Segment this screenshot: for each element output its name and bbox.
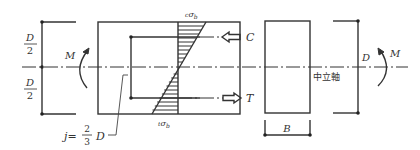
beam-bending-diagram: D 2 D 2 M [0, 0, 420, 150]
lever-arm-leader [108, 75, 128, 135]
left-moment-label: M [64, 50, 76, 61]
svg-text:3: 3 [84, 137, 90, 147]
tension-force-label: T [246, 92, 255, 105]
compression-force-label: C [246, 31, 255, 44]
svg-text:D: D [95, 130, 105, 143]
width-label: B [282, 123, 290, 134]
beam-elevation [98, 22, 240, 114]
hollow-arrow-right-icon [223, 93, 241, 103]
left-moment-arrow-icon [80, 48, 89, 88]
svg-text:D: D [25, 77, 34, 88]
right-moment-label: M [389, 48, 401, 59]
svg-text:2: 2 [27, 90, 33, 101]
svg-text:2: 2 [27, 45, 33, 56]
depth-label: D [361, 52, 370, 63]
svg-text:2: 2 [84, 124, 90, 134]
upper-half-depth-label: D 2 [24, 32, 37, 56]
hollow-arrow-left-icon [222, 32, 240, 42]
svg-text:D: D [25, 32, 34, 43]
lower-half-depth-label: D 2 [24, 77, 37, 101]
compression-stress-label: cσb [185, 10, 198, 20]
lever-arm-label: j= 2 3 D [61, 124, 105, 147]
tension-stress-label: tσb [158, 119, 170, 129]
stress-distribution [152, 22, 206, 114]
left-dimension-bracket [40, 20, 76, 116]
neutral-axis-label: 中立軸 [313, 71, 340, 82]
svg-text:j=: j= [61, 130, 77, 143]
